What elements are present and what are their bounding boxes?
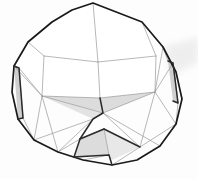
face-inner-top-right (98, 56, 156, 98)
polyhedron-render-canvas (0, 0, 198, 179)
polyhedron-wireframe-svg (0, 0, 198, 179)
face-inner-top-left (42, 56, 100, 98)
